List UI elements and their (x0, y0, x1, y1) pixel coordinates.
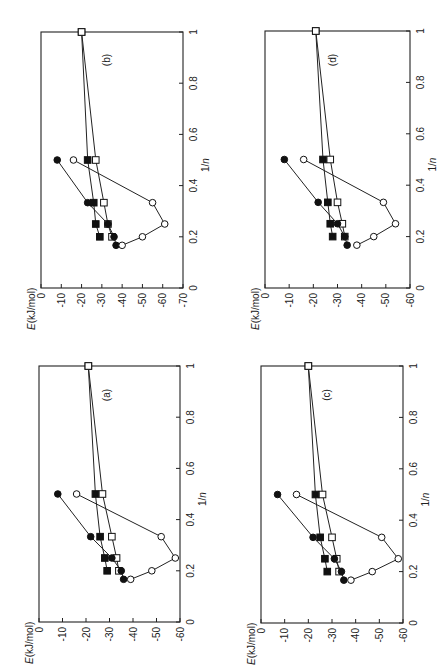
filled-circle-marker (281, 156, 288, 163)
open-circle-marker (139, 234, 146, 241)
open-square-marker (85, 363, 92, 370)
n-tick-label: 1 (408, 363, 419, 369)
e-tick-label: 0 (260, 293, 271, 299)
open-circle-marker (354, 242, 361, 249)
open-circle-marker (300, 156, 307, 163)
filled-circle-marker (87, 533, 94, 540)
filled-circle-marker (55, 491, 62, 498)
open-square-marker (329, 534, 336, 541)
e-tick-label: -40 (128, 627, 139, 642)
filled-square-marker (312, 491, 319, 498)
filled-circle-marker (341, 233, 348, 240)
open-circle-marker (158, 533, 165, 540)
filled-square-marker (325, 199, 332, 206)
open-circle-marker (293, 491, 300, 498)
filled-circle-marker (331, 555, 338, 562)
y-axis-label: E(kJ/mol) (24, 622, 35, 664)
n-tick-label: 0.2 (188, 229, 199, 243)
e-tick-label: -50 (151, 627, 162, 642)
open-circle-marker (348, 577, 355, 584)
open-circle-marker (378, 534, 385, 541)
panel-label: (b) (101, 54, 112, 66)
n-tick-label: 0.4 (188, 178, 199, 192)
filled-circle-marker (111, 234, 118, 241)
filled-square-marker (97, 234, 104, 241)
filled-circle-marker (344, 242, 351, 249)
n-tick-label: 0.6 (408, 461, 419, 475)
e-tick-label: -60 (175, 627, 186, 642)
n-tick-label: 0.2 (415, 229, 426, 243)
e-tick-label: -10 (279, 628, 290, 643)
e-tick-label: -10 (56, 293, 67, 308)
n-tick-label: 0.2 (185, 563, 196, 577)
open-circle-marker (70, 157, 77, 164)
n-tick-label: 0 (185, 619, 196, 625)
e-tick-label: -40 (117, 293, 128, 308)
filled-circle-marker (334, 220, 341, 227)
open-circle-marker (73, 491, 80, 498)
filled-circle-marker (341, 577, 348, 584)
filled-circle-marker (84, 199, 91, 206)
panel-label: (c) (321, 389, 332, 401)
n-tick-label: 1 (415, 28, 426, 34)
panel-label: (d) (327, 54, 338, 66)
y-axis-label: E(kJ/mol) (246, 623, 257, 665)
open-circle-marker (172, 555, 179, 562)
filled-circle-marker (120, 576, 127, 583)
n-tick-label: 0.2 (408, 564, 419, 578)
n-tick-label: 0.4 (408, 513, 419, 527)
n-tick-label: 0.8 (188, 76, 199, 90)
e-tick-label: -50 (380, 293, 391, 308)
filled-circle-marker (54, 157, 61, 164)
e-tick-label: 0 (34, 627, 45, 633)
chart-panel-d: 0-10-20-30-40-50-6000.20.40.60.811/nE(kJ… (250, 28, 438, 330)
e-tick-label: -60 (157, 293, 168, 308)
panel-label: (a) (101, 389, 112, 401)
e-tick-label: -30 (104, 627, 115, 642)
filled-square-marker (102, 555, 109, 562)
open-square-marker (312, 28, 319, 35)
plot-frame (41, 32, 183, 288)
n-tick-label: 0.6 (415, 126, 426, 140)
e-tick-label: -60 (405, 293, 416, 308)
filled-square-marker (327, 220, 334, 227)
n-tick-label: 1 (188, 29, 199, 35)
filled-square-marker (104, 568, 111, 575)
chart-panel-c: 0-10-20-30-40-50-6000.20.40.60.811/nE(kJ… (246, 363, 431, 665)
open-circle-marker (149, 199, 156, 206)
filled-square-marker (92, 491, 99, 498)
filled-square-marker (320, 156, 327, 163)
e-tick-label: -40 (356, 293, 367, 308)
open-circle-marker (380, 199, 387, 206)
open-circle-marker (370, 233, 377, 240)
e-tick-label: 0 (36, 293, 47, 299)
e-tick-label: -50 (137, 293, 148, 308)
open-square-marker (327, 156, 334, 163)
n-tick-label: 0.8 (415, 75, 426, 89)
e-tick-label: -40 (350, 628, 361, 643)
open-square-marker (101, 199, 108, 206)
n-tick-label: 0 (188, 285, 199, 291)
open-circle-marker (161, 221, 168, 228)
filled-circle-marker (338, 568, 345, 575)
n-tick-label: 0.6 (185, 461, 196, 475)
n-tick-label: 0.6 (188, 127, 199, 141)
filled-circle-marker (118, 568, 125, 575)
open-square-marker (99, 491, 106, 498)
plot-frame (261, 366, 403, 623)
filled-square-marker (322, 555, 329, 562)
open-square-marker (319, 491, 326, 498)
open-square-marker (92, 157, 99, 164)
e-tick-label: -20 (81, 627, 92, 642)
x-axis-label: 1/n (427, 157, 438, 171)
chart-panel-b: 0-10-20-30-40-50-60-7000.20.40.60.811/nE… (26, 29, 211, 330)
e-tick-label: -10 (57, 627, 68, 642)
e-tick-label: -20 (303, 628, 314, 643)
open-circle-marker (395, 555, 402, 562)
filled-circle-marker (105, 221, 112, 228)
open-square-marker (109, 533, 116, 540)
e-tick-label: -30 (96, 293, 107, 308)
filled-circle-marker (109, 555, 116, 562)
open-square-marker (334, 199, 341, 206)
open-circle-marker (127, 576, 134, 583)
